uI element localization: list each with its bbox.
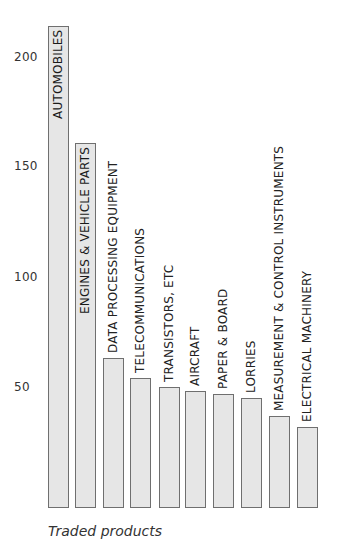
- y-tick-150: 150: [14, 159, 44, 173]
- bar-label: DATA PROCESSING EQUIPMENT: [106, 161, 120, 353]
- x-axis-label: Traded products: [48, 523, 162, 539]
- y-tick-50: 50: [14, 380, 44, 394]
- bar-measurement-control-instruments: [269, 416, 290, 508]
- bar-transistors-etc: [159, 387, 180, 508]
- bar-aircraft: [185, 391, 206, 508]
- bar-telecommunications: [130, 378, 151, 508]
- bar-label: LORRIES: [244, 340, 258, 393]
- bar-label: MEASUREMENT & CONTROL INSTRUMENTS: [272, 146, 286, 411]
- y-tick-100: 100: [14, 270, 44, 284]
- bar-label: AIRCRAFT: [188, 326, 202, 386]
- bar-label: TELECOMMUNICATIONS: [133, 228, 147, 373]
- bar-electrical-machinery: [297, 427, 318, 508]
- bar-paper-board: [213, 394, 234, 508]
- bar-lorries: [241, 398, 262, 508]
- bar-label: PAPER & BOARD: [216, 289, 230, 389]
- bar-label: TRANSISTORS, ETC: [162, 265, 176, 382]
- bar-chart: 200 150 100 50 AUTOMOBILESENGINES & VEHI…: [0, 0, 348, 543]
- bar-label: ELECTRICAL MACHINERY: [300, 271, 314, 422]
- bar-data-processing-equipment: [103, 358, 124, 508]
- bar-label: ENGINES & VEHICLE PARTS: [78, 147, 92, 314]
- bar-label: AUTOMOBILES: [51, 30, 65, 119]
- y-tick-200: 200: [14, 50, 44, 64]
